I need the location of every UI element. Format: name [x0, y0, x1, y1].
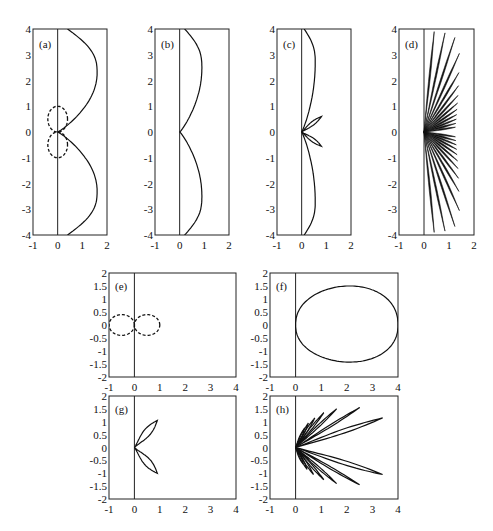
x-tick-label: 2 — [344, 503, 350, 515]
x-tick-label: 1 — [80, 239, 86, 251]
y-tick-label: -2 — [98, 493, 107, 505]
y-tick-label: -1.5 — [90, 480, 108, 492]
plot-curves — [424, 32, 459, 233]
plot-curves — [134, 421, 157, 474]
x-tick-label: 1 — [157, 503, 163, 515]
y-tick-label: 1 — [270, 100, 276, 112]
y-tick-label: 4 — [392, 23, 398, 35]
y-tick-label: -1 — [259, 467, 268, 479]
y-tick-label: -1 — [98, 345, 107, 357]
petal-upper — [134, 421, 157, 448]
y-tick-label: 1.5 — [93, 403, 107, 415]
y-tick-label: -4 — [22, 229, 32, 241]
y-tick-label: 2 — [392, 75, 398, 87]
y-tick-label: -1 — [266, 152, 275, 164]
y-tick-label: 1 — [263, 293, 269, 305]
x-tick-label: 4 — [395, 381, 401, 393]
panel-label: (a) — [39, 38, 52, 51]
y-tick-label: 1.5 — [254, 403, 268, 415]
x-tick-label: 0 — [299, 239, 305, 251]
x-tick-label: 4 — [233, 381, 239, 393]
y-tick-label: -3 — [388, 203, 398, 215]
plot-curves — [296, 408, 383, 485]
x-tick-label: 3 — [208, 381, 214, 393]
y-tick-label: 3 — [270, 49, 276, 61]
panel-f: -10123421.510.50-0.5-1-1.5-2(f) — [251, 267, 402, 393]
y-tick-label: 0 — [392, 126, 398, 138]
x-tick-label: 1 — [202, 239, 208, 251]
x-tick-label: 3 — [370, 503, 376, 515]
y-tick-label: -1 — [259, 345, 268, 357]
panel-a: -101243210-1-2-3-4(a) — [22, 23, 110, 251]
dashed-lobe-right — [134, 315, 159, 336]
y-tick-label: -3 — [266, 203, 276, 215]
y-tick-label: 0 — [102, 442, 108, 454]
y-tick-label: -4 — [144, 229, 154, 241]
y-tick-label: 2 — [263, 390, 269, 402]
panel-b: -101243210-1-2-3-4(b) — [144, 23, 232, 251]
plot-frame — [109, 273, 236, 377]
plot-curves — [302, 29, 322, 235]
y-tick-label: 1 — [26, 100, 32, 112]
plot-frame — [277, 29, 351, 235]
x-tick-label: 0 — [293, 381, 299, 393]
panel-label: (b) — [161, 38, 174, 51]
x-tick-label: 1 — [324, 239, 330, 251]
y-tick-label: 0 — [270, 126, 276, 138]
y-tick-label: 0.5 — [93, 306, 107, 318]
y-tick-label: -1 — [98, 467, 107, 479]
y-tick-label: 2 — [102, 390, 108, 402]
y-tick-label: 4 — [270, 23, 276, 35]
y-tick-label: 2 — [270, 75, 276, 87]
teardrop-lobe — [296, 286, 398, 362]
y-tick-label: 0 — [148, 126, 154, 138]
y-tick-label: -4 — [388, 229, 398, 241]
panel-label: (e) — [115, 280, 128, 293]
lobe-lower — [58, 132, 97, 235]
x-tick-label: 1 — [318, 381, 324, 393]
plot-frame — [399, 29, 474, 235]
y-tick-label: -1.5 — [251, 358, 269, 370]
y-tick-label: 3 — [148, 49, 154, 61]
x-tick-label: 2 — [344, 381, 350, 393]
y-tick-label: -0.5 — [90, 332, 108, 344]
dashed-lobe-left — [109, 315, 134, 336]
y-tick-label: -1.5 — [90, 358, 108, 370]
y-tick-label: 0 — [102, 319, 108, 331]
y-tick-label: -1.5 — [251, 480, 269, 492]
y-tick-label: -2 — [259, 371, 268, 383]
x-tick-label: 2 — [348, 239, 354, 251]
x-tick-label: 3 — [208, 503, 214, 515]
y-tick-label: -1 — [144, 152, 153, 164]
lobe-upper — [180, 29, 202, 132]
panel-label: (f) — [276, 280, 287, 293]
x-tick-label: 2 — [182, 503, 188, 515]
panel-e: -10123421.510.50-0.5-1-1.5-2(e) — [90, 267, 240, 393]
y-tick-label: 0 — [263, 442, 269, 454]
x-tick-label: 0 — [421, 239, 427, 251]
y-tick-label: -2 — [22, 178, 31, 190]
petal-lower — [134, 448, 157, 474]
y-tick-label: 0 — [26, 126, 32, 138]
y-tick-label: 0 — [263, 319, 269, 331]
y-tick-label: 0.5 — [254, 429, 268, 441]
y-tick-label: -2 — [144, 178, 153, 190]
lobe-upper — [58, 29, 97, 132]
x-tick-label: 4 — [233, 503, 239, 515]
lobe-upper — [302, 29, 316, 132]
x-tick-label: 1 — [446, 239, 452, 251]
y-tick-label: 4 — [148, 23, 154, 35]
y-tick-label: 1.5 — [93, 280, 107, 292]
panel-c: -101243210-1-2-3-4(c) — [266, 23, 354, 251]
y-tick-label: -0.5 — [251, 454, 269, 466]
plot-curves — [180, 29, 202, 235]
y-tick-label: -3 — [144, 203, 154, 215]
x-tick-label: 0 — [55, 239, 61, 251]
x-tick-label: 3 — [370, 381, 376, 393]
plot-frame — [155, 29, 229, 235]
y-tick-label: -4 — [266, 229, 276, 241]
lobe-lower — [180, 132, 202, 235]
y-tick-label: 1 — [392, 100, 398, 112]
panel-label: (d) — [405, 38, 418, 51]
x-tick-label: 2 — [104, 239, 110, 251]
